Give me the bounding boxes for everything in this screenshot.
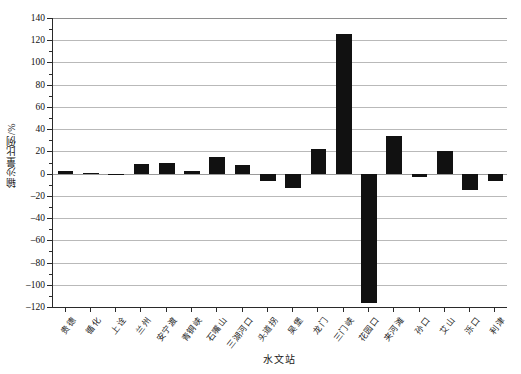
y-tick-mark-minor	[49, 296, 52, 297]
bars-layer	[53, 18, 507, 307]
y-tick-mark	[47, 174, 52, 175]
x-tick-mark	[368, 307, 369, 312]
y-tick-mark	[47, 40, 52, 41]
bar	[235, 165, 251, 174]
bar	[462, 174, 478, 191]
x-tick-label: 三门峡	[330, 314, 357, 343]
x-tick-label: 吴堡	[285, 314, 306, 336]
x-tick-mark	[191, 307, 192, 312]
x-tick-mark	[242, 307, 243, 312]
y-tick-mark-minor	[49, 207, 52, 208]
x-tick-mark	[140, 307, 141, 312]
x-tick-mark	[419, 307, 420, 312]
bar	[209, 157, 225, 174]
y-tick-label: 60	[5, 102, 45, 112]
x-tick-label: 贵德	[57, 314, 78, 336]
x-tick-mark	[267, 307, 268, 312]
x-tick-mark	[494, 307, 495, 312]
y-tick-mark	[47, 62, 52, 63]
plot-area	[52, 18, 507, 307]
x-tick-label: 青铜峡	[178, 314, 205, 343]
x-tick-label: 龙门	[310, 314, 331, 336]
x-tick-label: 泺口	[462, 314, 483, 336]
bar	[58, 171, 74, 173]
y-tick-mark-minor	[49, 229, 52, 230]
y-tick-label: –20	[5, 191, 45, 201]
x-tick-label: 上诠	[108, 314, 129, 336]
x-tick-mark	[317, 307, 318, 312]
y-tick-mark	[47, 218, 52, 219]
x-tick-label: 艾山	[436, 314, 457, 336]
bar	[184, 171, 200, 174]
x-tick-label: 孙口	[411, 314, 432, 336]
y-tick-mark-minor	[49, 140, 52, 141]
x-tick-mark	[444, 307, 445, 312]
y-tick-label: –100	[5, 280, 45, 290]
y-tick-label: 80	[5, 80, 45, 90]
y-tick-label: –60	[5, 235, 45, 245]
x-tick-mark	[65, 307, 66, 312]
x-tick-mark	[115, 307, 116, 312]
x-tick-mark	[166, 307, 167, 312]
x-tick-label: 头道拐	[254, 314, 281, 343]
y-tick-label: 40	[5, 124, 45, 134]
y-tick-mark-minor	[49, 74, 52, 75]
bar	[488, 174, 504, 182]
x-axis-title: 水文站	[52, 351, 507, 366]
x-tick-mark	[292, 307, 293, 312]
bar	[361, 174, 377, 303]
y-tick-mark	[47, 151, 52, 152]
y-tick-mark-minor	[49, 185, 52, 186]
y-tick-label: 100	[5, 57, 45, 67]
x-tick-mark	[469, 307, 470, 312]
y-tick-mark	[47, 196, 52, 197]
y-tick-label: 140	[5, 13, 45, 23]
sediment-ratio-bar-chart: 输沙量比例/% 140120100806040200–20–40–60–80–1…	[0, 0, 521, 374]
y-tick-mark	[47, 85, 52, 86]
y-tick-mark	[47, 129, 52, 130]
x-tick-label: 夹河滩	[380, 314, 407, 343]
bar	[386, 136, 402, 174]
y-tick-label: –120	[5, 302, 45, 312]
y-tick-mark-minor	[49, 274, 52, 275]
x-tick-label: 花园口	[355, 314, 382, 343]
x-tick-label: 安宁渡	[153, 314, 180, 343]
bar	[108, 174, 124, 176]
x-tick-mark	[393, 307, 394, 312]
y-tick-mark-minor	[49, 251, 52, 252]
bar	[83, 173, 99, 174]
y-tick-mark-minor	[49, 118, 52, 119]
x-tick-mark	[343, 307, 344, 312]
y-tick-mark-minor	[49, 163, 52, 164]
y-tick-label: 20	[5, 146, 45, 156]
x-axis-line	[52, 307, 507, 308]
x-tick-label: 兰州	[133, 314, 154, 336]
y-tick-mark-minor	[49, 29, 52, 30]
x-tick-label: 利津	[487, 314, 508, 336]
x-tick-label: 循化	[82, 314, 103, 336]
bar	[285, 174, 301, 188]
y-tick-label: –80	[5, 258, 45, 268]
y-tick-mark	[47, 240, 52, 241]
y-tick-mark	[47, 263, 52, 264]
y-tick-mark	[47, 18, 52, 19]
y-tick-label: –40	[5, 213, 45, 223]
y-tick-label: 0	[5, 169, 45, 179]
bar	[412, 174, 428, 177]
y-tick-label: 120	[5, 35, 45, 45]
y-tick-mark-minor	[49, 51, 52, 52]
bar	[437, 151, 453, 174]
bar	[260, 174, 276, 182]
bar	[159, 163, 175, 174]
x-tick-mark	[216, 307, 217, 312]
y-tick-mark	[47, 285, 52, 286]
y-tick-mark	[47, 107, 52, 108]
bar	[336, 34, 352, 174]
y-tick-mark-minor	[49, 96, 52, 97]
bar	[311, 149, 327, 173]
x-tick-mark	[90, 307, 91, 312]
bar	[134, 164, 150, 174]
